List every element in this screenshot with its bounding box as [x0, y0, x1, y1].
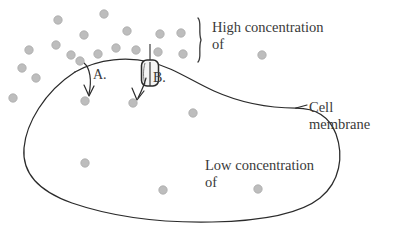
- solute-particle-outside: [32, 74, 40, 82]
- cell-membrane-label: Cell membrane: [309, 99, 370, 133]
- particles-outside-group: [9, 10, 187, 102]
- low-concentration-label: Low concentration of: [205, 157, 314, 191]
- cell-body-outline: [24, 72, 340, 222]
- cell-membrane-line1: Cell: [309, 99, 333, 115]
- cell-membrane-line2: membrane: [309, 116, 370, 133]
- solute-particle-inside: [129, 99, 137, 107]
- solute-particle-inside: [81, 159, 89, 167]
- solute-particle-outside: [154, 48, 162, 56]
- solute-particle-outside: [52, 41, 60, 49]
- diagram-canvas: High concentration of Low concentration …: [0, 0, 394, 242]
- brace-icon: [198, 18, 201, 62]
- solute-particle-outside: [177, 29, 185, 37]
- solute-particle-inside: [81, 97, 89, 105]
- arrow-b-label: B.: [153, 70, 166, 87]
- solute-particle-outside: [112, 44, 120, 52]
- solute-particle-outside: [132, 46, 140, 54]
- solute-particle-outside: [179, 50, 187, 58]
- arrow-a-label: A.: [93, 67, 107, 84]
- solute-particle-outside: [67, 51, 75, 59]
- low-concentration-line2: of: [205, 174, 314, 191]
- cell-membrane-outline: [75, 59, 296, 108]
- cell-membrane-leader-line: [296, 105, 307, 108]
- high-concentration-label: High concentration of: [212, 19, 324, 53]
- solute-particle-outside: [25, 46, 33, 54]
- solute-particle-outside: [9, 94, 17, 102]
- low-concentration-line1: Low concentration: [205, 157, 314, 173]
- particles-inside-group: [81, 97, 197, 194]
- solute-particle-inside: [189, 109, 197, 117]
- solute-particle-outside: [76, 57, 84, 65]
- solute-particle-outside: [54, 16, 62, 24]
- high-concentration-line1: High concentration: [212, 19, 324, 35]
- solute-particle-outside: [80, 31, 88, 39]
- solute-particle-outside: [156, 30, 164, 38]
- solute-particle-outside: [18, 64, 26, 72]
- solute-particle-outside: [94, 50, 102, 58]
- solute-particle-outside: [100, 10, 108, 18]
- solute-particle-outside: [123, 27, 131, 35]
- solute-particle-inside: [159, 186, 167, 194]
- high-concentration-line2: of: [212, 36, 324, 53]
- cell-outline-group: [24, 59, 340, 222]
